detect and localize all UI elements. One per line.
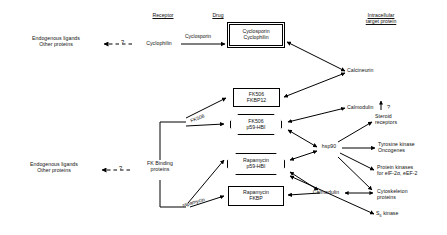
header-intracellular-target: Intracellular target protein — [338, 13, 424, 25]
target-tyrosine-kinase-oncogenes: Tyrosine kinase Oncogenes — [378, 142, 444, 154]
question-mark-top: ? — [121, 39, 124, 45]
header-receptor: Receptor — [135, 13, 191, 19]
header-target-line2: target protein — [366, 18, 397, 24]
target-hsp90: hsp90 — [316, 144, 342, 150]
target-steroid-receptors-line2: receptors — [375, 119, 397, 125]
endogenous-ligands-bottom: Endogenous ligands Other proteins — [10, 162, 98, 174]
complex-rapamycin-p59hbi-line2: p59-HBI — [246, 164, 265, 170]
target-s6-kinase: S6 kinase — [376, 211, 422, 218]
target-calcineurin: Calcineurin — [347, 68, 401, 74]
question-mark-bottom: ? — [119, 165, 122, 171]
target-steroid-receptors: Steroid receptors — [375, 114, 431, 126]
question-mark-steroid: ? — [387, 104, 390, 110]
complex-fk506-fkbp12-line2: FKBP12 — [247, 98, 266, 104]
complex-cyclosporin-cyclophilin-line2: Cyclophilin — [243, 35, 268, 41]
target-protein-kinases-eif: Protein kinases for eIF-2α, eEF-2 — [377, 165, 445, 177]
complex-fk506-p59hbi-line2: p59-HBI — [246, 125, 265, 131]
diagram-canvas: Receptor Drug Intracellular target prote… — [0, 0, 447, 235]
fk-binding-proteins-line2: proteins — [151, 166, 170, 172]
receptor-fk-binding-proteins: FK Binding proteins — [134, 161, 186, 173]
target-cytoskeleton-proteins: Cytoskeleton proteins — [377, 189, 435, 201]
drug-cyclosporin: Cyclosporin — [185, 33, 211, 39]
target-cytoskeleton-line2: proteins — [377, 194, 396, 200]
complex-rapamycin-fkbp[interactable]: Rapamycin FKBP — [228, 186, 284, 206]
complex-rapamycin-p59hbi[interactable]: Rapamycin p59-HBI — [227, 153, 285, 175]
target-protein-kinases-line2: for eIF-2α, eEF-2 — [377, 170, 417, 176]
target-s6-kinase-text: S6 kinase — [376, 210, 398, 216]
target-calmodulin-top: Calmodulin — [347, 105, 401, 111]
complex-cyclosporin-cyclophilin[interactable]: Cyclosporin Cyclophilin — [229, 24, 283, 46]
endogenous-ligands-bottom-line2: Other proteins — [37, 167, 71, 173]
endogenous-ligands-top: Endogenous ligands Other proteins — [12, 36, 100, 48]
receptor-cyclophilin: Cyclophilin — [136, 41, 182, 47]
target-tyrosine-kinase-line2: Oncogenes — [378, 147, 405, 153]
endogenous-ligands-top-line2: Other proteins — [39, 41, 73, 47]
complex-rapamycin-fkbp-line2: FKBP — [249, 196, 263, 202]
header-drug: Drug — [196, 13, 240, 19]
complex-fk506-fkbp12[interactable]: FK506 FKBP12 — [233, 88, 280, 107]
complex-fk506-p59hbi[interactable]: FK506 p59-HBI — [230, 114, 282, 135]
target-calmodulin-bottom: Calmodulin — [305, 190, 347, 196]
